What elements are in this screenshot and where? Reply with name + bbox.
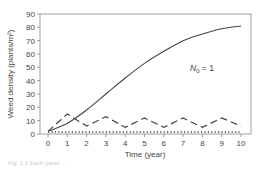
plot-frame [40, 14, 251, 134]
y-tick-label: 40 [26, 77, 35, 86]
x-tick-label: 8 [200, 139, 205, 148]
y-tick-label: 90 [26, 10, 35, 19]
series-solid-line [48, 26, 241, 131]
n0-annotation: N0 = 1 [190, 63, 214, 74]
x-tick-label: 5 [142, 139, 147, 148]
x-tick-label: 2 [84, 139, 89, 148]
y-tick-label: 30 [26, 90, 35, 99]
x-tick-label: 4 [123, 139, 128, 148]
x-tick-label: 1 [65, 139, 70, 148]
y-tick-label: 0 [31, 130, 36, 139]
weed-density-chart: 0102030405060708090 012345678910 Time (y… [0, 0, 257, 169]
x-axis-ticks: 012345678910 [46, 134, 246, 148]
y-tick-label: 20 [26, 103, 35, 112]
x-tick-label: 0 [46, 139, 51, 148]
x-axis-label: Time (year) [125, 150, 166, 159]
y-tick-label: 70 [26, 37, 35, 46]
series-lines [48, 26, 241, 132]
x-tick-label: 10 [237, 139, 246, 148]
x-tick-label: 7 [181, 139, 186, 148]
y-tick-label: 80 [26, 23, 35, 32]
figure-caption: Fig. 1.1 Each panel ... [8, 160, 66, 166]
y-tick-label: 10 [26, 117, 35, 126]
x-tick-label: 9 [219, 139, 224, 148]
x-tick-label: 3 [104, 139, 109, 148]
y-tick-label: 60 [26, 50, 35, 59]
y-axis-label: Weed density (plants/m²) [6, 29, 15, 118]
x-tick-label: 6 [162, 139, 167, 148]
y-axis-ticks: 0102030405060708090 [26, 10, 40, 139]
annot-rest: = 1 [199, 63, 214, 73]
y-tick-label: 50 [26, 63, 35, 72]
